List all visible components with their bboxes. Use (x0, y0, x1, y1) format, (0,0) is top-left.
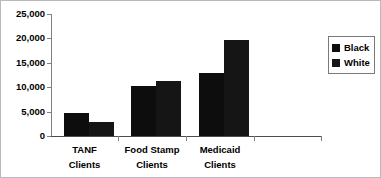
y-tick-label: 5,000 (21, 107, 45, 117)
bar-black-2 (199, 73, 224, 136)
x-tick-3 (321, 136, 322, 141)
legend-label-black: Black (344, 43, 369, 53)
y-tick-label: 25,000 (16, 9, 45, 19)
x-label-line-2: Clients (51, 157, 118, 172)
bar-white-0 (89, 122, 114, 136)
x-label-tanf: TANF Clients (51, 142, 118, 172)
x-label-line-1: Medicaid (186, 142, 254, 157)
legend-swatch-black-icon (332, 44, 340, 52)
x-tick-2 (254, 136, 255, 141)
x-label-line-1: TANF (51, 142, 118, 157)
x-label-line-1: Food Stamp (118, 142, 186, 157)
x-label-line-2: Clients (118, 157, 186, 172)
legend-swatch-white-icon (332, 59, 340, 67)
y-tick-label: 15,000 (16, 58, 45, 68)
legend-entry-white: White (332, 55, 370, 70)
bar-white-2 (224, 40, 249, 136)
bar-black-0 (64, 113, 89, 136)
x-tick-0 (118, 136, 119, 141)
x-tick-1 (186, 136, 187, 141)
y-tick-label: 10,000 (16, 82, 45, 92)
y-tick-label: 20,000 (16, 34, 45, 44)
x-label-food-stamp: Food Stamp Clients (118, 142, 186, 172)
legend-entry-black: Black (332, 40, 370, 55)
x-label-medicaid: Medicaid Clients (186, 142, 254, 172)
bar-chart: 0 5,000 10,000 15,000 20,000 25,000 (0, 0, 381, 178)
y-tick-label: 0 (40, 131, 45, 141)
bars-layer (51, 14, 321, 136)
legend-label-white: White (344, 58, 370, 68)
bar-black-1 (131, 86, 156, 136)
chart-legend: Black White (328, 36, 375, 74)
y-tick-mark (47, 136, 51, 137)
x-label-line-2: Clients (186, 157, 254, 172)
x-axis-labels: TANF Clients Food Stamp Clients Medicaid… (51, 142, 321, 178)
bar-white-1 (156, 81, 181, 136)
